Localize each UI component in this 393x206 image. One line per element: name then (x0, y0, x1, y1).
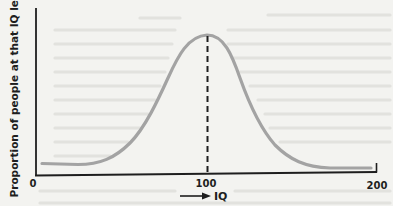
x-tick-label-0: 0 (30, 178, 37, 189)
x-axis (35, 172, 377, 176)
y-axis-label: Proportion of people at that IQ level (8, 0, 20, 197)
x-tick-label-100: 100 (196, 178, 217, 189)
x-axis-label: IQ (214, 190, 227, 203)
x-tick-label-200: 200 (367, 180, 388, 191)
arrow-right-icon (202, 193, 211, 200)
iq-distribution-chart: Proportion of people at that IQ level 0 … (0, 0, 393, 206)
